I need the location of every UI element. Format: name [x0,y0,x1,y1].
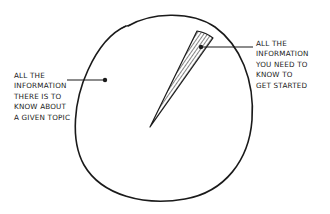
annotation-line: ALL THE [14,71,70,81]
annotation-all-information: ALL THE INFORMATION THERE IS TO KNOW ABO… [14,71,70,123]
leader-dot-right [199,45,203,49]
annotation-line: ALL THE [256,39,309,49]
slice-get-started [150,31,213,127]
annotation-line: INFORMATION [256,49,309,59]
annotation-line: KNOW TO [256,70,309,80]
annotation-line: INFORMATION [14,81,70,91]
annotation-line: GET STARTED [256,81,309,91]
annotation-line: THERE IS TO [14,92,70,102]
leader-dot-left [103,78,107,82]
annotation-line: A GIVEN TOPIC [14,113,70,123]
annotation-line: YOU NEED TO [256,60,309,70]
annotation-get-started: ALL THE INFORMATION YOU NEED TO KNOW TO … [256,39,309,91]
annotation-line: KNOW ABOUT [14,102,70,112]
